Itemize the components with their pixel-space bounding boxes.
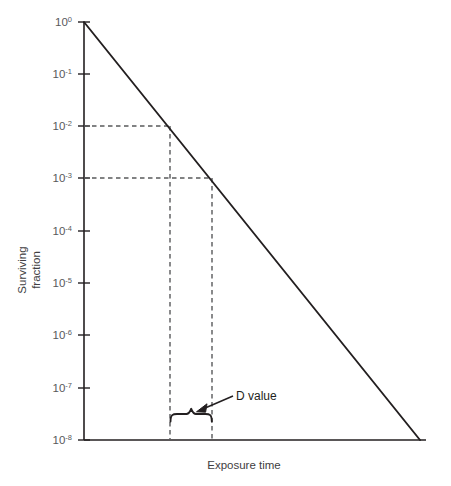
survival-curve-chart: 100 10-1 10-2 10-3 10-4 10-5 10-6 10-7 1…	[0, 0, 451, 486]
d-value-label: D value	[236, 389, 277, 403]
y-axis-title-line-1: Surviving	[16, 246, 28, 293]
figure-container: 100 10-1 10-2 10-3 10-4 10-5 10-6 10-7 1…	[0, 0, 451, 486]
x-axis-title: Exposure time	[207, 459, 281, 471]
y-axis-title-line-2: fraction	[30, 251, 42, 289]
